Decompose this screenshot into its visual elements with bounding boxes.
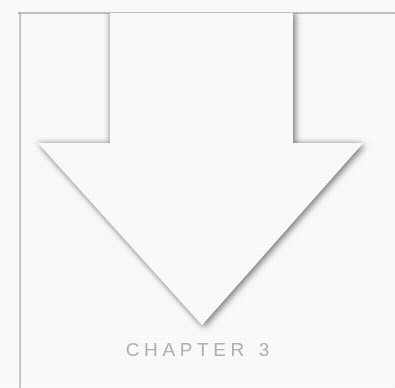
down-arrow-graphic <box>0 0 395 388</box>
chapter-opener-page: CHAPTER 3 <box>0 0 395 388</box>
chapter-label: CHAPTER 3 <box>0 338 395 362</box>
